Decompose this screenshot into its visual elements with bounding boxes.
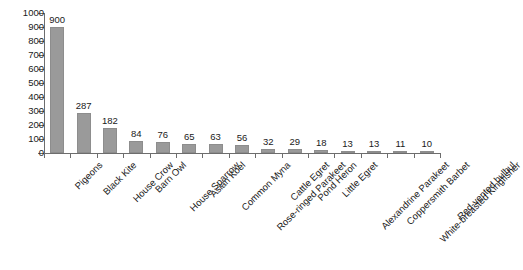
x-axis-tick-mark xyxy=(387,153,388,158)
x-axis-tick-mark xyxy=(361,153,362,158)
bar-value-label: 13 xyxy=(369,139,380,149)
bar[interactable] xyxy=(129,141,143,153)
bar-group: 182 xyxy=(97,13,123,153)
x-axis-tick-mark xyxy=(255,153,256,158)
y-axis-tick-label: 600 xyxy=(10,64,44,74)
bar-group: 76 xyxy=(150,13,176,153)
y-axis-tick: 900 xyxy=(0,27,44,28)
bar-value-label: 32 xyxy=(263,137,274,147)
bar-group: 18 xyxy=(308,13,334,153)
bar-group: 13 xyxy=(334,13,360,153)
bar[interactable] xyxy=(156,142,170,153)
y-axis-tick: 300 xyxy=(0,111,44,112)
bar-value-label: 84 xyxy=(131,129,142,139)
bar-group: 13 xyxy=(361,13,387,153)
bar-group: 63 xyxy=(202,13,228,153)
bar[interactable] xyxy=(288,149,302,153)
y-axis-tick-label: 1000 xyxy=(10,8,44,18)
y-axis-tick-label: 700 xyxy=(10,50,44,60)
bar-value-label: 11 xyxy=(395,139,405,149)
x-axis-tick-mark xyxy=(97,153,98,158)
y-axis-tick: 100 xyxy=(0,139,44,140)
x-axis-category-label: Pigeons xyxy=(73,160,104,191)
y-axis-tick-label: 200 xyxy=(10,120,44,130)
x-axis-category-label: Black Kite xyxy=(102,160,139,197)
y-axis-tick: 400 xyxy=(0,97,44,98)
bar-value-label: 65 xyxy=(184,132,195,142)
y-axis-tick-label: 0 xyxy=(10,148,44,158)
bar-value-label: 182 xyxy=(102,116,118,126)
y-axis-tick: 700 xyxy=(0,55,44,56)
y-axis-tick-label: 100 xyxy=(10,134,44,144)
bar-value-label: 10 xyxy=(421,139,432,149)
bar-value-label: 287 xyxy=(76,101,92,111)
x-axis-tick-mark xyxy=(308,153,309,158)
bar-value-label: 900 xyxy=(49,15,65,25)
y-axis-tick-label: 300 xyxy=(10,106,44,116)
x-axis-tick-mark xyxy=(44,153,45,158)
bar-group: 11 xyxy=(387,13,413,153)
bar-group: 29 xyxy=(282,13,308,153)
y-axis-tick-label: 800 xyxy=(10,36,44,46)
bar[interactable] xyxy=(235,145,249,153)
bar[interactable] xyxy=(420,151,434,153)
bar-value-label: 13 xyxy=(342,139,353,149)
bar[interactable] xyxy=(50,27,64,153)
plot-area: 900287182847665635632291813131110 xyxy=(44,13,440,153)
y-axis-tick-label: 900 xyxy=(10,22,44,32)
x-axis-tick-mark xyxy=(334,153,335,158)
bar[interactable] xyxy=(103,128,117,153)
x-axis-tick-mark xyxy=(229,153,230,158)
bar[interactable] xyxy=(77,113,91,153)
y-axis-tick: 500 xyxy=(0,83,44,84)
bar-group: 287 xyxy=(70,13,96,153)
x-axis-tick-mark xyxy=(150,153,151,158)
bar-value-label: 63 xyxy=(210,132,221,142)
bar-value-label: 76 xyxy=(157,130,168,140)
x-axis-tick-mark xyxy=(202,153,203,158)
bar-group: 84 xyxy=(123,13,149,153)
bar[interactable] xyxy=(341,151,355,153)
bar[interactable] xyxy=(261,149,275,153)
x-axis-tick-mark xyxy=(414,153,415,158)
y-axis-tick: 1000 xyxy=(0,13,44,14)
bar-group: 32 xyxy=(255,13,281,153)
y-axis-tick: 800 xyxy=(0,41,44,42)
x-axis-tick-mark xyxy=(123,153,124,158)
bar[interactable] xyxy=(367,151,381,153)
y-axis-tick: 200 xyxy=(0,125,44,126)
x-axis-tick-mark xyxy=(282,153,283,158)
x-axis-tick-mark xyxy=(70,153,71,158)
bar-value-label: 29 xyxy=(289,137,300,147)
bar-value-label: 56 xyxy=(237,133,248,143)
bar-group: 56 xyxy=(229,13,255,153)
x-axis-line xyxy=(44,153,440,154)
x-axis-category-label: Common Myna xyxy=(240,160,293,213)
bar[interactable] xyxy=(182,144,196,153)
y-axis-tick: 0 xyxy=(0,153,44,154)
x-axis-tick-mark xyxy=(440,153,441,158)
y-axis-tick: 600 xyxy=(0,69,44,70)
x-axis-tick-mark xyxy=(176,153,177,158)
bar-group: 65 xyxy=(176,13,202,153)
bar-value-label: 18 xyxy=(316,138,327,148)
bar[interactable] xyxy=(209,144,223,153)
bar-group: 10 xyxy=(414,13,440,153)
bar[interactable] xyxy=(393,151,407,153)
y-axis-tick-label: 400 xyxy=(10,92,44,102)
bar-group: 900 xyxy=(44,13,70,153)
bar[interactable] xyxy=(314,150,328,153)
y-axis-tick-label: 500 xyxy=(10,78,44,88)
